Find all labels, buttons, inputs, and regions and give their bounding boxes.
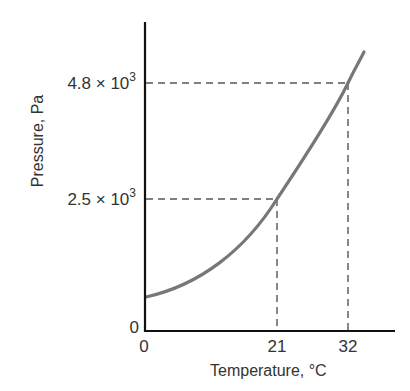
- chart: 4.8 × 103 2.5 × 103 0 0 21 32 Temperatur…: [0, 0, 410, 391]
- y-tick-2500: 2.5 × 103: [67, 186, 136, 209]
- y-axis-title: Pressure, Pa: [29, 95, 46, 188]
- x-tick-0: 0: [139, 337, 148, 356]
- guide-lines: [146, 83, 348, 331]
- x-tick-21: 21: [268, 337, 287, 356]
- y-tick-4800: 4.8 × 103: [67, 70, 136, 93]
- x-axis-title: Temperature, °C: [210, 362, 327, 379]
- pressure-curve: [146, 52, 364, 297]
- y-tick-0: 0: [130, 318, 139, 337]
- x-tick-32: 32: [339, 337, 358, 356]
